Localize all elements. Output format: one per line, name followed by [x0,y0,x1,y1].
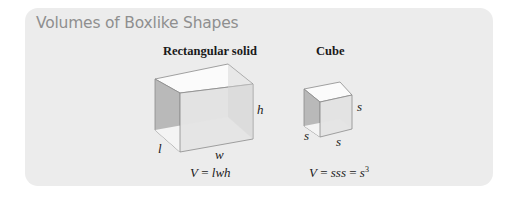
cube-side-left-label: s [304,128,309,144]
formula-product: sss [331,165,346,180]
formula-lhs: V [309,165,317,180]
cube-side-bottom-label: s [336,134,341,150]
formula-rhs: lwh [212,165,231,180]
box-illustrations [0,0,520,201]
height-label: h [257,102,264,118]
formula-lhs: V [190,165,198,180]
rectangular-solid-formula: V = lwh [190,165,231,181]
width-label: w [215,147,224,163]
cube-shape [304,82,352,137]
cube-side-right-label: s [357,99,362,115]
length-label: l [158,141,162,157]
cube-formula: V = sss = s3 [309,165,369,181]
rectangular-solid-shape [155,64,253,152]
formula-exponent: 3 [365,165,369,174]
